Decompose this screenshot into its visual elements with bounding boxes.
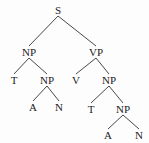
tree-node-np: NP bbox=[22, 47, 36, 58]
parse-tree-diagram: SNPVPTNPVNPANTNPAN bbox=[0, 0, 149, 143]
tree-node-a: A bbox=[104, 130, 112, 141]
tree-edge bbox=[58, 16, 96, 46]
tree-edge bbox=[96, 58, 109, 74]
tree-node-n: N bbox=[135, 130, 143, 141]
tree-edge bbox=[123, 115, 139, 129]
tree-edge bbox=[47, 86, 59, 101]
tree-edge bbox=[33, 86, 47, 101]
tree-edge bbox=[29, 16, 58, 46]
tree-node-t: T bbox=[88, 104, 95, 115]
tree-node-v: V bbox=[72, 75, 80, 86]
tree-node-n: N bbox=[55, 102, 63, 113]
tree-edges bbox=[0, 0, 149, 143]
tree-node-np: NP bbox=[40, 75, 54, 86]
tree-node-s: S bbox=[55, 5, 61, 16]
tree-edge bbox=[109, 86, 123, 103]
tree-node-np: NP bbox=[102, 75, 116, 86]
tree-edge bbox=[76, 58, 96, 74]
tree-node-vp: VP bbox=[89, 47, 103, 58]
tree-edge bbox=[29, 58, 47, 74]
tree-node-t: T bbox=[11, 75, 18, 86]
tree-edge bbox=[91, 86, 109, 103]
tree-node-a: A bbox=[29, 102, 37, 113]
tree-edge bbox=[14, 58, 29, 74]
tree-node-np: NP bbox=[116, 104, 130, 115]
tree-edge bbox=[108, 115, 123, 129]
